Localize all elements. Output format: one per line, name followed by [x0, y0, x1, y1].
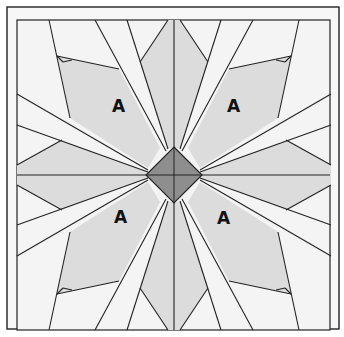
- quilt-block-diagram: A A A A: [0, 0, 344, 337]
- label-a-top-right: A: [227, 96, 241, 116]
- label-a-bottom-left: A: [114, 207, 128, 227]
- label-a-bottom-right: A: [217, 208, 231, 228]
- quilt-block-svg: A A A A: [0, 0, 344, 337]
- label-a-top-left: A: [112, 96, 126, 116]
